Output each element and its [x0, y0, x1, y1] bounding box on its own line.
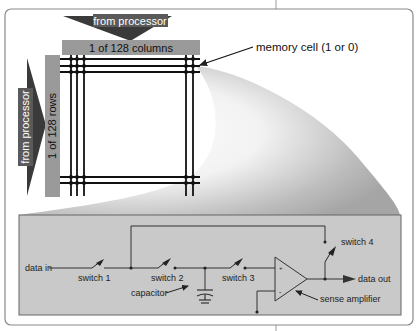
capacitor-label: capacitor: [131, 288, 168, 298]
switch-3-label: switch 3: [222, 273, 255, 283]
column-select-bar: 1 of 128 columns: [62, 40, 200, 55]
switch-1-label: switch 1: [78, 273, 111, 283]
row-select-bar: 1 of 128 rows: [45, 55, 60, 197]
memory-cell-label: memory cell (1 or 0): [256, 41, 358, 53]
row-arrow-label: from processor: [19, 90, 31, 164]
switch-2-label: switch 2: [151, 273, 184, 283]
column-arrow-label: from processor: [93, 15, 167, 27]
column-bar-label: 1 of 128 columns: [89, 42, 173, 54]
data-out-label: data out: [358, 274, 391, 284]
memory-diagram: from processor 1 of 128 columns from pro…: [0, 0, 420, 331]
switch-4-label: switch 4: [341, 237, 374, 247]
row-bar-label: 1 of 128 rows: [46, 92, 58, 159]
sense-amplifier-label: sense amplifier: [320, 294, 381, 304]
amp-plus-label: +: [279, 265, 283, 271]
data-in-label: data in: [25, 263, 52, 273]
